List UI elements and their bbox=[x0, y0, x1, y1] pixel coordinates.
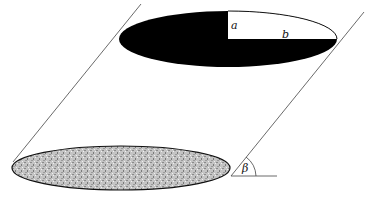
oblique-cylinder-diagram: a b β bbox=[0, 0, 368, 204]
label-beta: β bbox=[241, 162, 248, 175]
label-b: b bbox=[282, 28, 289, 41]
base-ellipse bbox=[12, 146, 230, 190]
left-generator-line bbox=[13, 4, 141, 162]
label-a: a bbox=[231, 19, 238, 32]
